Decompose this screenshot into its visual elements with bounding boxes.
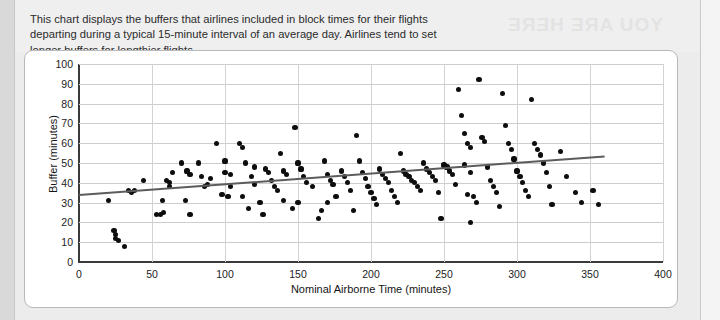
scatter-point	[339, 168, 344, 173]
scatter-point	[538, 152, 543, 157]
scatter-point	[468, 145, 473, 150]
scatter-point	[476, 77, 481, 82]
scatter-point	[354, 133, 359, 138]
y-tick-label: 0	[67, 256, 73, 268]
scatter-point	[187, 172, 192, 177]
scatter-point	[179, 160, 184, 165]
scatter-point	[348, 188, 353, 193]
scatter-point	[509, 147, 514, 152]
y-tick-label: 90	[61, 78, 73, 90]
scatter-point	[122, 244, 127, 249]
scatter-point	[371, 196, 376, 201]
scatter-point	[462, 131, 467, 136]
scatter-point	[161, 210, 166, 215]
scatter-point	[468, 220, 473, 225]
scatter-point	[351, 208, 356, 213]
scatter-point	[295, 160, 300, 165]
scatter-point	[292, 125, 297, 130]
scatter-point	[526, 194, 531, 199]
scatter-point	[529, 97, 534, 102]
scatter-point	[208, 176, 213, 181]
scatter-point	[225, 194, 230, 199]
x-tick-label: 100	[216, 268, 234, 280]
y-tick-label: 50	[61, 157, 73, 169]
plot-area: 0102030405060708090100050100150200250300…	[79, 64, 663, 262]
scatter-point	[199, 174, 204, 179]
scatter-point	[520, 180, 525, 185]
y-tick-label: 70	[61, 117, 73, 129]
scatter-point	[535, 147, 540, 152]
x-gridline	[590, 64, 591, 262]
plot-right-border	[663, 64, 664, 262]
scatter-point	[590, 188, 595, 193]
scatter-point	[596, 202, 601, 207]
scatter-point	[549, 202, 554, 207]
scatter-point	[219, 192, 224, 197]
bleed-through-text: YOU ARE HERE	[470, 14, 700, 36]
scatter-point	[517, 174, 522, 179]
x-axis-title: Nominal Airborne Time (minutes)	[79, 283, 663, 295]
scatter-point	[284, 172, 289, 177]
scatter-point	[468, 170, 473, 175]
scatter-point	[228, 172, 233, 177]
scatter-chart: 0102030405060708090100050100150200250300…	[25, 51, 679, 309]
scatter-point	[298, 166, 303, 171]
scatter-point	[474, 200, 479, 205]
scatter-point	[214, 141, 219, 146]
scatter-point	[523, 188, 528, 193]
scatter-point	[295, 200, 300, 205]
scatter-point	[116, 238, 121, 243]
scatter-point	[368, 190, 373, 195]
page-background: YOU ARE HERE This chart displays the buf…	[0, 0, 720, 320]
scatter-point	[503, 123, 508, 128]
scatter-point	[257, 200, 262, 205]
scatter-point	[196, 160, 201, 165]
scatter-point	[456, 87, 461, 92]
scatter-point	[564, 174, 569, 179]
x-tick-label: 400	[654, 268, 672, 280]
scatter-point	[187, 212, 192, 217]
x-gridline	[152, 64, 153, 262]
scatter-point	[573, 190, 578, 195]
x-tick-label: 200	[362, 268, 380, 280]
scatter-point	[453, 182, 458, 187]
x-gridline	[371, 64, 372, 262]
scatter-point	[304, 180, 309, 185]
scatter-point	[514, 168, 519, 173]
x-tick-label: 0	[76, 268, 82, 280]
scatter-point	[506, 141, 511, 146]
scatter-point	[266, 170, 271, 175]
scatter-point	[170, 170, 175, 175]
y-tick-label: 60	[61, 137, 73, 149]
scatter-point	[278, 151, 283, 156]
x-tick-label: 250	[435, 268, 453, 280]
scatter-point	[325, 200, 330, 205]
scatter-point	[398, 151, 403, 156]
scatter-point	[160, 198, 165, 203]
scatter-point	[363, 176, 368, 181]
scatter-point	[365, 184, 370, 189]
scatter-point	[438, 216, 443, 221]
x-tick-label: 350	[581, 268, 599, 280]
y-tick-label: 30	[61, 197, 73, 209]
page-gutter-strip	[0, 0, 14, 320]
scatter-point	[532, 141, 537, 146]
scatter-point	[260, 212, 265, 217]
y-tick-label: 20	[61, 216, 73, 228]
scatter-point	[558, 149, 563, 154]
scatter-point	[421, 160, 426, 165]
scatter-point	[579, 200, 584, 205]
scatter-point	[544, 170, 549, 175]
y-tick-label: 100	[55, 58, 73, 70]
chart-card: 0102030405060708090100050100150200250300…	[24, 50, 678, 308]
scatter-point	[547, 184, 552, 189]
scatter-point	[436, 190, 441, 195]
scatter-point	[450, 172, 455, 177]
scatter-point	[310, 184, 315, 189]
scatter-point	[240, 145, 245, 150]
page-right-margin	[701, 0, 720, 320]
scatter-point	[374, 202, 379, 207]
scatter-point	[316, 216, 321, 221]
scatter-point	[386, 180, 391, 185]
x-tick-label: 150	[289, 268, 307, 280]
